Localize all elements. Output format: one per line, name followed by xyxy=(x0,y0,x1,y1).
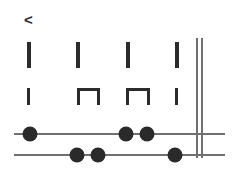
diagram-canvas: < xyxy=(0,0,232,170)
lower-line xyxy=(14,148,225,163)
staff-lines-group xyxy=(14,127,225,163)
less-than-marker: < xyxy=(24,12,33,27)
bracket-row xyxy=(27,88,178,105)
bracket-right-leg xyxy=(97,88,100,105)
bracket-right-leg xyxy=(147,88,150,105)
node-marker-2-1[interactable] xyxy=(70,148,85,163)
bracket-3 xyxy=(126,88,150,105)
node-marker-1-1[interactable] xyxy=(23,127,38,142)
tick-mark-3 xyxy=(126,42,130,68)
bracket-left-leg xyxy=(126,88,129,105)
bracket-row-tick-4 xyxy=(175,88,178,105)
bracket-top-bar xyxy=(126,88,150,91)
bracket-top-bar xyxy=(77,88,100,91)
bracket-row-tick-1 xyxy=(27,88,30,105)
node-marker-2-3[interactable] xyxy=(168,148,183,163)
node-marker-2-2[interactable] xyxy=(91,148,106,163)
tick-row xyxy=(27,42,179,68)
node-marker-1-2[interactable] xyxy=(119,127,134,142)
bracket-left-leg xyxy=(77,88,80,105)
bracket-2 xyxy=(77,88,100,105)
tick-mark-1 xyxy=(27,42,31,68)
upper-line xyxy=(14,127,225,142)
tick-mark-2 xyxy=(76,42,80,68)
tick-mark-4 xyxy=(175,42,179,68)
node-marker-1-3[interactable] xyxy=(140,127,155,142)
diagram-graphics xyxy=(0,0,232,170)
double-vertical-rule xyxy=(197,38,202,158)
